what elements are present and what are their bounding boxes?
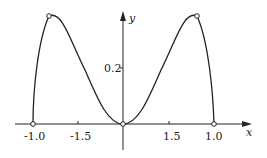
x-tick-label: -1.0	[24, 130, 45, 143]
y-axis-arrow-icon	[120, 11, 126, 21]
x-tick-label: -1.5	[70, 130, 91, 143]
data-point	[195, 14, 200, 19]
data-point	[47, 14, 52, 19]
data-point	[121, 122, 126, 127]
x-axis-label: x	[246, 126, 253, 139]
y-axis-label: y	[128, 12, 136, 25]
y-tick-label: 0.2	[104, 62, 122, 75]
x-tick-label: 1.0	[205, 130, 223, 143]
x-tick-label: 1.5	[163, 130, 181, 143]
chart: x y 0.2 -1.0 -1.5 1.5 1.0	[0, 0, 267, 158]
data-point	[212, 122, 217, 127]
data-point	[31, 122, 36, 127]
